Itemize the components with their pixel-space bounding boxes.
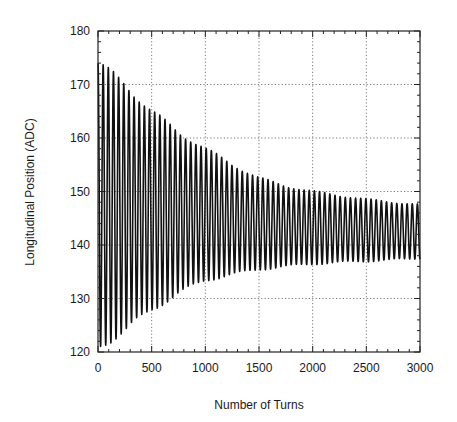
x-tick-label: 0 bbox=[95, 361, 102, 375]
y-tick-label: 160 bbox=[70, 131, 90, 145]
y-tick-label: 150 bbox=[70, 185, 90, 199]
x-tick-label: 3000 bbox=[407, 361, 434, 375]
x-tick-label: 2500 bbox=[353, 361, 380, 375]
x-axis-title: Number of Turns bbox=[214, 398, 303, 412]
x-tick-label: 1000 bbox=[192, 361, 219, 375]
chart: 050010001500200025003000 120130140150160… bbox=[0, 0, 457, 422]
x-axis-tick-labels: 050010001500200025003000 bbox=[95, 361, 434, 375]
y-tick-label: 140 bbox=[70, 238, 90, 252]
x-tick-label: 1500 bbox=[246, 361, 273, 375]
x-tick-label: 500 bbox=[142, 361, 162, 375]
y-tick-label: 180 bbox=[70, 24, 90, 38]
y-axis-title: Longitudinal Position (ADC) bbox=[23, 118, 37, 265]
y-tick-label: 130 bbox=[70, 292, 90, 306]
y-axis-tick-labels: 120130140150160170180 bbox=[70, 24, 90, 359]
plot-area: 050010001500200025003000 120130140150160… bbox=[0, 0, 457, 422]
x-tick-label: 2000 bbox=[299, 361, 326, 375]
y-tick-label: 120 bbox=[70, 345, 90, 359]
y-tick-label: 170 bbox=[70, 78, 90, 92]
